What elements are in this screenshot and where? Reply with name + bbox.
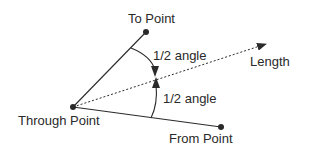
to-point-label: To Point	[128, 12, 175, 25]
length-label: Length	[250, 55, 290, 68]
through-point-dot	[70, 104, 76, 110]
from-point-dot	[218, 124, 224, 130]
upper-arc-arrow-icon	[151, 66, 159, 77]
to-point-dot	[143, 29, 149, 35]
through-point-label: Through Point	[18, 114, 100, 127]
half-angle-upper-label: 1/2 angle	[153, 49, 207, 62]
to-point-line	[73, 32, 146, 107]
from-point-label: From Point	[169, 132, 233, 145]
half-angle-lower-label: 1/2 angle	[163, 92, 217, 105]
lower-half-angle-arc	[151, 84, 156, 118]
lower-arc-arrow-icon	[152, 77, 160, 88]
